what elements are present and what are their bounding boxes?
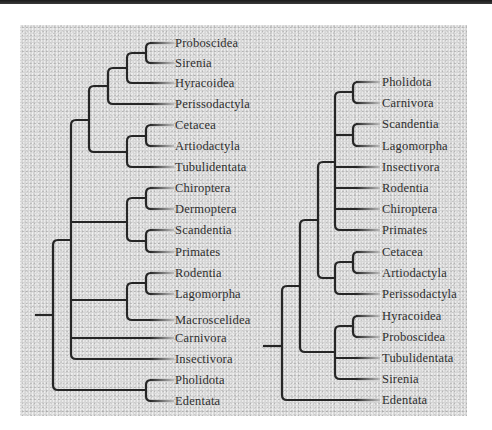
- tree-branch: [146, 235, 172, 252]
- leaf-label: Edentata: [382, 393, 427, 407]
- leaf-label: Sirenia: [175, 56, 212, 70]
- leaf-label: Chiroptera: [382, 202, 437, 216]
- leaf-label: Primates: [382, 223, 427, 237]
- tree-branch: [318, 167, 335, 278]
- leaf-label: Artiodactyla: [382, 266, 447, 280]
- leaf-label: Cetacea: [382, 245, 423, 259]
- tree-branch: [353, 257, 378, 273]
- tree-branch: [108, 73, 172, 104]
- leaf-label: Scandentia: [175, 223, 232, 237]
- tree-branch: [282, 286, 300, 291]
- left-tree: [35, 43, 174, 401]
- tree-branch: [353, 129, 378, 146]
- tree-branch: [335, 267, 378, 294]
- leaf-label: Primates: [175, 245, 220, 259]
- tree-branch: [318, 162, 335, 167]
- leaf-label: Tubulidentata: [382, 351, 454, 365]
- leaf-label: Tubulidentata: [175, 160, 247, 174]
- leaf-label: Proboscidea: [175, 36, 238, 50]
- leaf-label: Artiodactyla: [175, 139, 240, 153]
- leaf-label: Rodentia: [382, 181, 429, 195]
- tree-branch: [146, 193, 172, 209]
- leaf-label: Sirenia: [382, 372, 419, 386]
- tree-branch: [89, 86, 108, 91]
- tree-branch: [127, 136, 146, 141]
- tree-branch: [53, 385, 146, 390]
- leaf-label: Carnivora: [382, 96, 434, 110]
- leaf-label: Perissodactyla: [382, 287, 457, 301]
- leaf-label: Macroscelidea: [175, 313, 250, 327]
- leaf-label: Perissodactyla: [175, 97, 250, 111]
- leaf-label: Rodentia: [175, 266, 222, 280]
- leaf-label: Scandentia: [382, 117, 439, 131]
- tree-branch: [146, 278, 172, 294]
- tree-branch: [71, 120, 89, 125]
- leaf-label: Insectivora: [382, 160, 440, 174]
- right-tree: [263, 82, 380, 400]
- leaf-label: Insectivora: [175, 352, 233, 366]
- leaf-label: Edentata: [175, 394, 220, 408]
- tree-branch: [127, 53, 146, 58]
- tree-branch: [127, 283, 146, 288]
- leaf-label: Carnivora: [175, 331, 227, 345]
- tree-branch: [71, 125, 172, 359]
- tree-branch: [300, 220, 318, 225]
- leaf-label: Lagomorpha: [382, 139, 448, 153]
- tree-branch: [53, 240, 71, 245]
- tree-branch: [353, 321, 378, 337]
- tree-branch: [335, 262, 353, 267]
- leaf-label: Cetacea: [175, 118, 216, 132]
- tree-branch: [282, 291, 378, 400]
- tree-branch: [146, 48, 172, 63]
- tree-branch: [335, 92, 353, 97]
- leaf-label: Pholidota: [175, 373, 225, 387]
- tree-branch: [127, 203, 146, 241]
- leaf-label: Dermoptera: [175, 202, 237, 216]
- tree-branch: [146, 385, 172, 401]
- leaf-label: Chiroptera: [175, 181, 230, 195]
- tree-branch: [108, 68, 127, 73]
- tree-branch: [353, 87, 378, 103]
- tree-branch: [146, 130, 172, 146]
- leaf-label: Hyracoidea: [175, 76, 235, 90]
- tree-branch: [335, 326, 353, 331]
- leaf-label: Pholidota: [382, 75, 432, 89]
- leaf-label: Proboscidea: [382, 330, 445, 344]
- leaf-label: Lagomorpha: [175, 287, 241, 301]
- leaf-label: Hyracoidea: [382, 309, 442, 323]
- tree-branch: [127, 198, 146, 203]
